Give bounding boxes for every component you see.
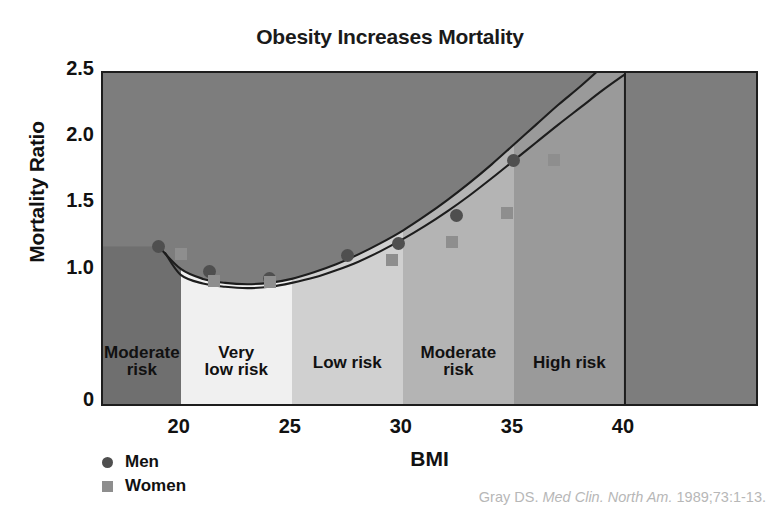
square-marker-icon	[96, 481, 118, 492]
risk-band: Moderaterisk	[103, 73, 181, 404]
y-tick-label: 2.5	[38, 57, 94, 80]
risk-band-label: Veryhigh risk	[625, 344, 756, 379]
legend-item: Women	[96, 474, 186, 498]
circle-marker-icon	[96, 457, 118, 468]
y-axis-tick-labels: 1.01.52.02.50	[30, 0, 94, 420]
x-tick-label: 25	[260, 415, 320, 438]
risk-band-label-line: Moderate	[103, 344, 181, 361]
chart-figure: Obesity Increases Mortality Mortality Ra…	[0, 0, 780, 528]
legend-item: Men	[96, 450, 186, 474]
risk-band-label-line: low risk	[181, 361, 292, 378]
citation: Gray DS. Med Clin. North Am. 1989;73:1-1…	[479, 489, 766, 505]
y-tick-label: 1.0	[38, 256, 94, 279]
risk-band: Veryhigh risk	[625, 73, 756, 404]
citation-author: Gray DS.	[479, 489, 539, 505]
risk-band-label: Verylow risk	[181, 344, 292, 379]
y-tick-label: 2.0	[38, 123, 94, 146]
risk-band: Low risk	[292, 73, 403, 404]
x-tick-label: 30	[371, 415, 431, 438]
risk-band-label-line: Moderate	[403, 344, 514, 361]
risk-band: Verylow risk	[181, 73, 292, 404]
risk-band-label-line: High risk	[514, 354, 625, 371]
risk-band-label-line: high risk	[625, 361, 756, 378]
chart-title: Obesity Increases Mortality	[0, 25, 780, 49]
x-tick-label: 40	[593, 415, 653, 438]
y-tick-label: 0	[38, 388, 94, 411]
citation-journal: Med Clin. North Am.	[542, 489, 672, 505]
risk-band-label: High risk	[514, 354, 625, 371]
risk-band-label: Low risk	[292, 354, 403, 371]
x-tick-label: 35	[482, 415, 542, 438]
risk-band-label: Moderaterisk	[103, 344, 181, 379]
risk-band-label-line: Very	[181, 344, 292, 361]
risk-band-label-line: risk	[103, 361, 181, 378]
risk-band: High risk	[514, 73, 625, 404]
risk-band-label-line: Low risk	[292, 354, 403, 371]
risk-band: Moderaterisk	[403, 73, 514, 404]
x-axis-label: BMI	[101, 447, 758, 471]
risk-band-label-line: risk	[403, 361, 514, 378]
square-glyph	[102, 481, 113, 492]
y-tick-label: 1.5	[38, 189, 94, 212]
chart-legend: MenWomen	[96, 450, 186, 498]
legend-label: Women	[125, 476, 186, 496]
citation-locator: 1989;73:1-13.	[677, 489, 767, 505]
plot-area: ModerateriskVerylow riskLow riskModerate…	[101, 71, 758, 406]
risk-band-label: Moderaterisk	[403, 344, 514, 379]
circle-glyph	[102, 457, 113, 468]
legend-label: Men	[125, 452, 159, 472]
risk-band-label-line: Very	[625, 344, 756, 361]
x-tick-label: 20	[149, 415, 209, 438]
